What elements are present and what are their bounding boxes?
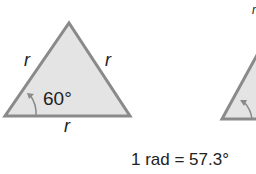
- side-label-left: r: [24, 50, 30, 71]
- angle-label: 60°: [43, 88, 72, 110]
- caption: 1 rad = 57.3°: [131, 150, 229, 170]
- side-label-right: r: [105, 50, 111, 71]
- radian-triangle: [222, 46, 256, 119]
- radian-side-label-partial: r: [252, 3, 256, 17]
- side-label-bottom: r: [64, 116, 70, 137]
- diagram-canvas: [0, 0, 256, 174]
